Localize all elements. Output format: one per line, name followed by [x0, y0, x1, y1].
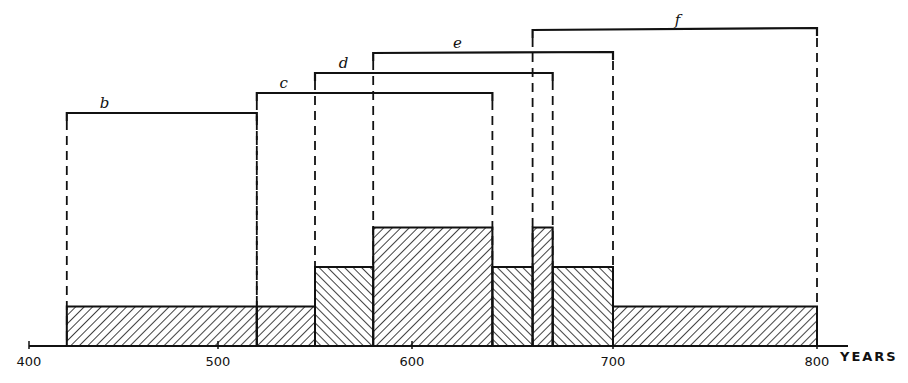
histogram-bar — [492, 267, 532, 346]
interval-bracket-b — [67, 113, 257, 121]
interval-label-e: e — [453, 34, 462, 52]
x-tick-label: 600 — [400, 354, 425, 369]
interval-bracket-c — [257, 93, 493, 101]
x-tick-label: 400 — [17, 354, 42, 369]
interval-label-c: c — [280, 74, 289, 92]
x-tick-label: 800 — [805, 354, 830, 369]
interval-chart: bcdef 400500600700800 YEARS — [0, 0, 908, 383]
interval-bracket-f — [533, 28, 817, 38]
interval-label-d: d — [339, 54, 349, 72]
interval-brackets: bcdef — [67, 11, 817, 121]
interval-label-f: f — [674, 11, 683, 29]
x-tick-label: 500 — [206, 354, 231, 369]
histogram-bar — [553, 267, 613, 346]
histogram-bar — [533, 228, 553, 347]
histogram-bar — [613, 307, 817, 347]
x-tick-label: 700 — [601, 354, 626, 369]
histogram-bars — [67, 228, 817, 347]
interval-label-b: b — [100, 94, 110, 112]
histogram-bar — [373, 228, 492, 347]
interval-bracket-d — [315, 73, 553, 81]
interval-bracket-e — [373, 52, 613, 61]
x-axis-label: YEARS — [839, 349, 898, 364]
histogram-bar — [67, 307, 257, 347]
histogram-bar — [257, 307, 315, 347]
histogram-bar — [315, 267, 373, 346]
